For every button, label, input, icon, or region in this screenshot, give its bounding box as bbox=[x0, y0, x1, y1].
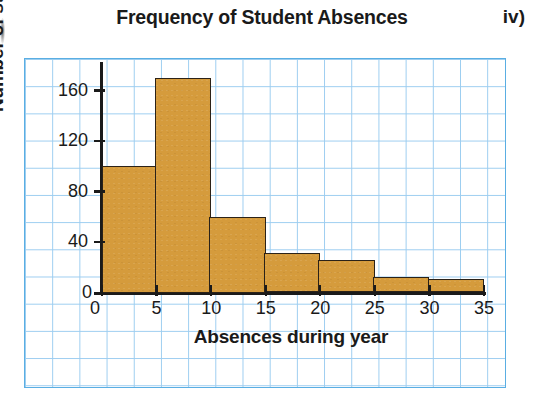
page-title: Frequency of Student Absences bbox=[72, 6, 452, 29]
x-axis-tick-label: 25 bbox=[355, 298, 395, 319]
y-axis-tick-label: 40 bbox=[40, 231, 88, 252]
x-axis-tick bbox=[265, 285, 267, 296]
y-axis-tick-label: 120 bbox=[40, 130, 88, 151]
histogram-bar bbox=[318, 260, 374, 293]
histogram-bar bbox=[264, 253, 320, 292]
histogram-bar bbox=[155, 78, 211, 293]
histogram-bar bbox=[209, 217, 265, 293]
y-axis-tick-label: 160 bbox=[40, 80, 88, 101]
y-axis-tick bbox=[94, 241, 105, 243]
x-axis-tick-label: 35 bbox=[464, 298, 504, 319]
x-axis-tick-label: 10 bbox=[191, 298, 231, 319]
y-axis-title: Number of students bbox=[0, 0, 8, 112]
x-axis-tick bbox=[319, 285, 321, 296]
figure-label: iv) bbox=[503, 6, 525, 28]
x-axis-tick-label: 15 bbox=[246, 298, 286, 319]
histogram-bar bbox=[102, 166, 157, 292]
x-axis-tick-label: 30 bbox=[409, 298, 449, 319]
x-axis-tick-label: 5 bbox=[137, 298, 177, 319]
y-axis-tick bbox=[94, 89, 105, 91]
histogram-bar bbox=[373, 277, 429, 292]
x-axis-tick bbox=[483, 285, 485, 296]
histogram-bar bbox=[428, 279, 484, 293]
x-axis-tick bbox=[155, 285, 157, 296]
x-axis-tick-label: 0 bbox=[75, 298, 115, 319]
y-axis-tick-label: 80 bbox=[40, 181, 88, 202]
x-axis-tick-label: 20 bbox=[300, 298, 340, 319]
x-axis-tick bbox=[374, 285, 376, 296]
x-axis-tick bbox=[210, 285, 212, 296]
x-axis-tick bbox=[428, 285, 430, 296]
x-axis-tick bbox=[101, 285, 103, 296]
x-axis-title: Absences during year bbox=[96, 326, 486, 348]
y-axis-tick bbox=[94, 190, 105, 192]
y-axis-tick bbox=[94, 140, 105, 142]
